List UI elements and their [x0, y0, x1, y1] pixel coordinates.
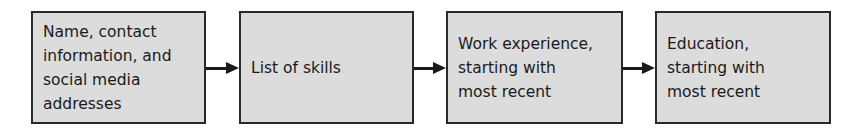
node-education: Education, starting with most recent [655, 11, 831, 124]
arrow-right-icon [623, 62, 655, 74]
node-label: Education, starting with most recent [667, 32, 765, 104]
node-skills: List of skills [239, 11, 414, 124]
node-work-experience: Work experience, starting with most rece… [446, 11, 623, 124]
node-label: Name, contact information, and social me… [43, 20, 171, 116]
node-contact-info: Name, contact information, and social me… [31, 11, 206, 124]
arrow-right-icon [206, 62, 239, 74]
node-label: List of skills [251, 56, 341, 80]
arrow-right-icon [414, 62, 446, 74]
node-label: Work experience, starting with most rece… [458, 32, 593, 104]
